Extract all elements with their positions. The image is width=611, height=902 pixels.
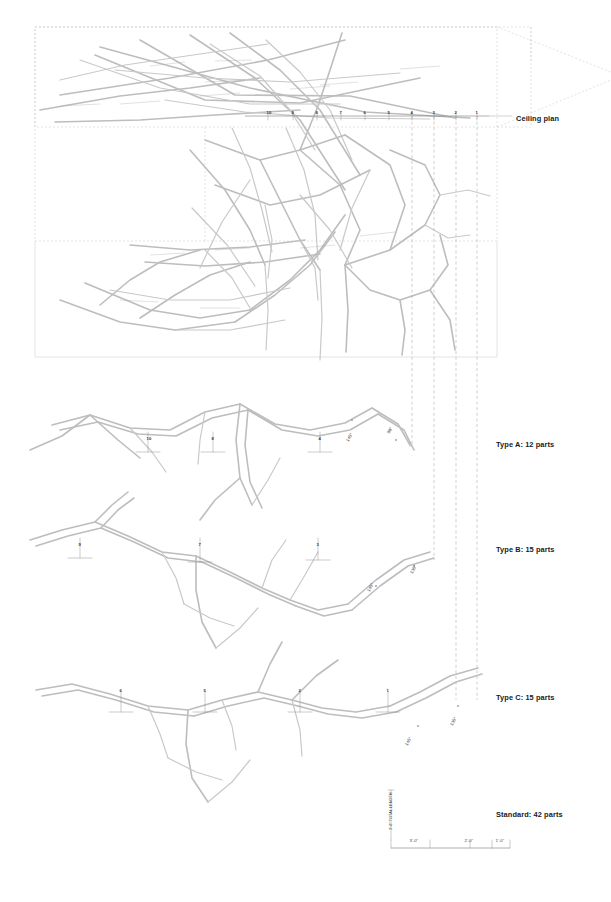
type-a-marker-8: 8 (212, 436, 214, 441)
type-c-marker-5: 5 (204, 688, 206, 693)
grid-station-10: 10 (267, 110, 272, 115)
ceiling-plan-label: Ceiling plan (516, 114, 559, 123)
type-c-marker-1: 1 (387, 688, 389, 693)
type-b-marker-7: 7 (199, 542, 201, 547)
grid-station-1: 1 (476, 110, 478, 115)
grid-station-7: 7 (340, 110, 342, 115)
type-b-marker-3: 3 (317, 542, 319, 547)
grid-station-3: 3 (433, 110, 435, 115)
standard-parts-label: Standard: 42 parts (496, 810, 563, 819)
grid-station-9: 9 (292, 110, 294, 115)
type-a-assembly (30, 404, 414, 520)
drawing-sheet: .mem { stroke:#bdbdbd; stroke-width:1.6;… (0, 0, 611, 902)
scale-tick-3'-0": 3'-0" (410, 838, 419, 843)
type-c-assembly (36, 642, 482, 802)
ceiling-plan-members (40, 33, 490, 360)
grid-station-8: 8 (316, 110, 318, 115)
grid-station-4: 4 (411, 110, 413, 115)
type-c-marker-2: 2 (299, 688, 301, 693)
grid-station-2: 2 (455, 110, 457, 115)
scale-tick-2'-0": 2'-0" (465, 838, 474, 843)
type-a-label: Type A: 12 parts (496, 440, 554, 449)
type-b-marker-9: 9 (79, 542, 81, 547)
architectural-linework: .mem { stroke:#bdbdbd; stroke-width:1.6;… (0, 0, 611, 902)
type-b-assembly (30, 492, 434, 648)
grid-station-5: 5 (388, 110, 390, 115)
type-c-label: Type C: 15 parts (496, 693, 555, 702)
scale-total-length-note: 3'-6" TOTAL LENGTH (388, 792, 393, 830)
scale-bar (388, 790, 510, 848)
projection-lines (408, 116, 477, 700)
type-a-marker-4: 4 (319, 436, 321, 441)
type-a-marker-10: 10 (147, 436, 152, 441)
scale-tick-1'-0": 1'-0" (496, 838, 505, 843)
ceiling-plan-frames (35, 27, 611, 357)
type-b-label: Type B: 15 parts (496, 545, 555, 554)
grid-station-6: 6 (364, 110, 366, 115)
type-c-marker-6: 6 (120, 688, 122, 693)
